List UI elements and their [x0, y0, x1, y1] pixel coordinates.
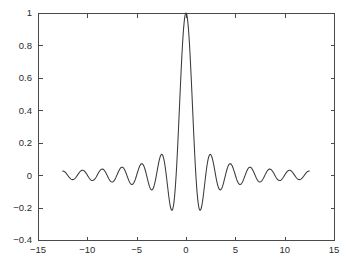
- x-tick-label: 10: [279, 244, 290, 255]
- x-tick-label: −10: [79, 244, 95, 255]
- chart-figure: −15−10−5051015 −0.4−0.200.20.40.60.81: [0, 0, 349, 270]
- y-tick-label: 0.4: [19, 105, 32, 116]
- y-tick-label: 0.8: [19, 40, 32, 51]
- figure-background: [0, 0, 349, 270]
- x-tick-label: −15: [30, 244, 46, 255]
- y-tick-label: 0.6: [19, 72, 32, 83]
- y-tick-label: 1: [27, 7, 32, 18]
- x-tick-label: 5: [233, 244, 238, 255]
- y-tick-label: 0.2: [19, 137, 32, 148]
- sinc-function-plot: −15−10−5051015 −0.4−0.200.20.40.60.81: [0, 0, 349, 270]
- x-tick-label: 0: [183, 244, 188, 255]
- y-tick-label: 0: [27, 170, 32, 181]
- x-tick-label: 15: [329, 244, 340, 255]
- x-tick-label: −5: [131, 244, 142, 255]
- y-tick-label: −0.4: [13, 234, 32, 245]
- y-tick-label: −0.2: [13, 202, 32, 213]
